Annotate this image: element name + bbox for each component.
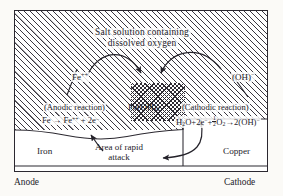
anodic-eq-part1: Fe → Fe [42,115,72,125]
hydroxide-ion-label: (OH)− [231,72,255,82]
hydroxide-ion-symbol: (OH) [232,72,251,82]
rapid-attack-line1: Area of rapid [95,142,143,152]
corrosion-cell-diagram: Salt solution containing dissolved oxyge… [0,0,283,196]
iron-ion-charge: ++ [81,72,88,78]
anodic-eq-sup1: ++ [72,116,79,122]
cathodic-reaction-equation: H2O+2e−+12O2→2(OH)− [175,116,261,128]
anode-terminal-label: Anode [14,178,39,188]
cathodic-eq-part2: O+2e [185,117,204,127]
copper-electrode-label: Copper [223,147,250,157]
rapid-attack-line2: attack [108,152,130,162]
solution-title: Salt solution containing dissolved oxyge… [59,28,225,49]
hydroxide-ion-charge: − [251,72,254,78]
anodic-eq-part2: + 2e [79,115,96,125]
rapid-attack-label: Area of rapid attack [77,142,161,163]
iron-electrode-label: Iron [37,147,52,157]
iron-hydroxide-subscript: 2 [157,105,160,112]
iron-ion-label: Fe++ [71,72,89,82]
iron-hydroxide-formula: Fe(OH) [128,102,157,112]
cell-frame: Salt solution containing dissolved oxyge… [14,10,268,172]
cathodic-reaction-title: (Cathodic reaction) [181,103,250,112]
anodic-eq-sup2: − [96,116,99,122]
solution-title-line1: Salt solution containing [93,28,191,38]
anodic-reaction-equation: Fe → Fe++ + 2e− [41,116,100,125]
iron-ion-symbol: Fe [72,72,81,82]
iron-hydroxide-label: Fe(OH)2 [128,103,160,113]
anodic-reaction-title: (Anodic reaction) [43,103,106,112]
solution-title-line2: dissolved oxygen [106,39,179,49]
electron-current-label: Electron current [107,171,169,172]
cathodic-eq-sup2: − [256,117,259,123]
cathodic-eq-part5: →2(OH) [225,117,256,127]
cathode-terminal-label: Cathode [224,178,255,188]
